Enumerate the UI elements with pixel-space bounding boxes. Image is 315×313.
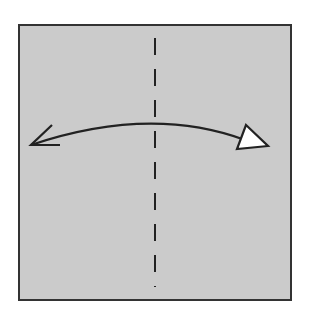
origami-diagram xyxy=(0,0,315,313)
